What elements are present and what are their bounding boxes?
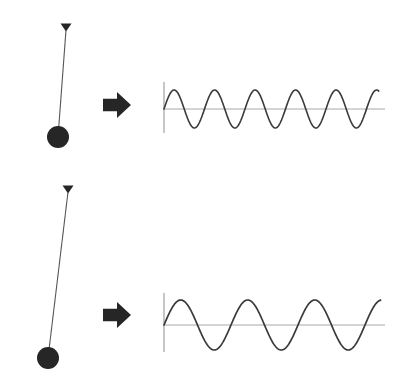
pendulum-string-short (58, 30, 66, 137)
pendulum-bob-long (37, 347, 59, 369)
pendulum-bob-short (47, 126, 69, 148)
figure-canvas (0, 0, 402, 386)
pendulum-waveform-figure (0, 0, 402, 386)
transform-arrow-bottom-icon (103, 302, 131, 328)
long-pendulum-row (37, 186, 385, 370)
transform-arrow-top-icon (103, 92, 131, 118)
pendulum-string-long (48, 192, 68, 358)
short-pendulum-row (47, 24, 385, 149)
